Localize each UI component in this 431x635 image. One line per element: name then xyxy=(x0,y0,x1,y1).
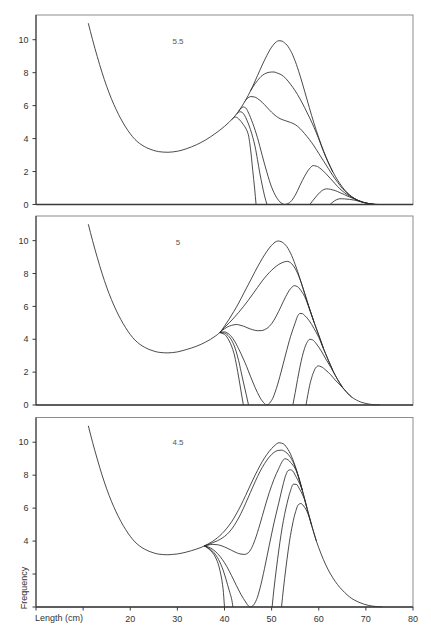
y-tick-label: 10 xyxy=(18,437,28,447)
y-tick-label: 2 xyxy=(23,167,28,177)
y-tick-label: 4 xyxy=(23,134,28,144)
x-tick-label: 70 xyxy=(361,614,371,624)
curves xyxy=(88,23,380,204)
plot-frame xyxy=(36,418,413,608)
y-tick-label: 10 xyxy=(18,35,28,45)
x-tick-label: 30 xyxy=(172,614,182,624)
y-tick-label: 4 xyxy=(23,536,28,546)
y-tick-label: 0 xyxy=(23,400,28,410)
curve-3 xyxy=(220,286,324,349)
y-axis-label: Frequency xyxy=(19,567,30,610)
panel-label-top: 5.5 xyxy=(163,37,193,47)
x-axis-label: Length (cm) xyxy=(35,613,83,624)
curves xyxy=(88,426,382,607)
chart-panel-1: 0246810 xyxy=(18,15,413,210)
curve-6 xyxy=(306,366,352,405)
y-tick-label: 8 xyxy=(23,470,28,480)
curve-6 xyxy=(220,333,244,405)
y-tick-label: 0 xyxy=(23,200,28,210)
curve-5 xyxy=(293,339,342,405)
x-tick-label: 60 xyxy=(314,614,324,624)
curve-4 xyxy=(239,107,376,205)
curve-1 xyxy=(88,23,380,204)
x-tick-label: 50 xyxy=(267,614,277,624)
plot-frame xyxy=(36,216,413,405)
curve-2 xyxy=(204,450,302,546)
curves xyxy=(88,224,380,405)
curve-5 xyxy=(220,333,249,405)
figure: 024681002468104681020304050607080 5.5 5 … xyxy=(0,0,431,635)
curve-2 xyxy=(220,261,314,332)
chart-panel-3: 4681020304050607080 xyxy=(18,418,418,625)
curve-1 xyxy=(88,426,382,607)
panel-label-middle: 5 xyxy=(163,238,193,248)
y-tick-label: 10 xyxy=(18,236,28,246)
chart-canvas: 024681002468104681020304050607080 xyxy=(0,0,431,635)
plot-frame xyxy=(36,15,413,205)
y-tick-label: 8 xyxy=(23,269,28,279)
x-tick-label: 80 xyxy=(408,614,418,624)
curve-6 xyxy=(282,504,317,607)
curve-6 xyxy=(330,199,375,205)
x-tick-label: 20 xyxy=(125,614,135,624)
x-tick-label: 40 xyxy=(219,614,229,624)
y-tick-label: 6 xyxy=(23,503,28,513)
y-tick-label: 2 xyxy=(23,367,28,377)
curve-6 xyxy=(232,117,257,205)
curve-5 xyxy=(272,484,312,607)
y-tick-label: 8 xyxy=(23,68,28,78)
panel-label-bottom: 4.5 xyxy=(163,438,193,448)
y-tick-label: 4 xyxy=(23,334,28,344)
curve-6 xyxy=(204,546,224,607)
y-tick-label: 6 xyxy=(23,101,28,111)
y-tick-label: 6 xyxy=(23,302,28,312)
chart-panel-2: 0246810 xyxy=(18,216,413,410)
